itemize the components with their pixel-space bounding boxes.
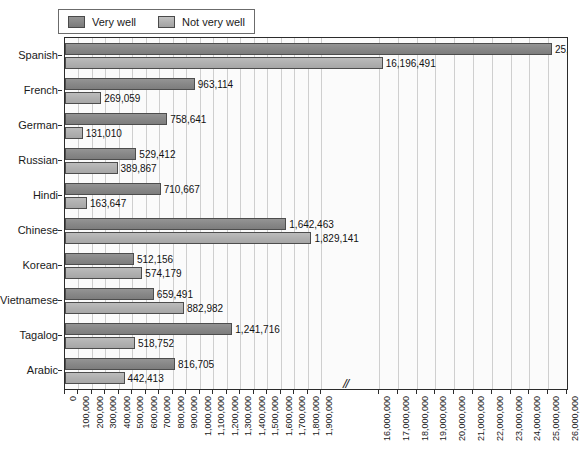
gridline — [567, 38, 568, 389]
x-axis-tick-label: 17,000,000 — [401, 396, 411, 441]
bar-value-label: 1,829,141 — [314, 233, 359, 244]
x-axis-tick — [131, 390, 132, 394]
x-axis-tick-label: 600,000 — [149, 396, 159, 429]
x-axis-tick-label: 800,000 — [176, 396, 186, 429]
bar — [65, 218, 286, 230]
x-axis-tick-label: 1,700,000 — [297, 396, 307, 436]
category-label: Spanish — [18, 49, 58, 61]
bar — [65, 148, 136, 160]
axis-break-icon: // — [343, 376, 348, 391]
x-axis-tick-label: 0 — [68, 396, 78, 401]
x-axis-tick — [104, 390, 105, 394]
category-tick — [58, 160, 62, 161]
x-axis-tick — [253, 390, 254, 394]
x-axis-tick-label: 25,000,000 — [551, 396, 561, 441]
category-tick — [58, 90, 62, 91]
bar — [65, 183, 161, 195]
x-axis-tick-label: 21,000,000 — [476, 396, 486, 441]
legend-swatch-icon — [158, 16, 175, 28]
plot-area: 25,196,49116,196,491963,114269,059758,64… — [64, 37, 568, 390]
legend-item[interactable]: Very well — [68, 16, 136, 28]
x-axis-tick — [453, 390, 454, 394]
bar-value-label: 389,867 — [121, 162, 157, 173]
x-axis-tick-label: 500,000 — [135, 396, 145, 429]
bar-value-label: 710,667 — [164, 183, 200, 194]
x-axis-tick-label: 19,000,000 — [438, 396, 448, 441]
category-tick — [58, 335, 62, 336]
x-axis-tick-label: 100,000 — [81, 396, 91, 429]
x-axis-tick — [91, 390, 92, 394]
x-axis-tick — [172, 390, 173, 394]
x-axis-tick-label: 1,000,000 — [203, 396, 213, 436]
x-axis-tick — [416, 390, 417, 394]
bar — [65, 337, 135, 349]
x-axis-tick-label: 1,200,000 — [230, 396, 240, 436]
legend-item-label: Very well — [92, 16, 136, 28]
bar-value-label: 816,705 — [178, 359, 214, 370]
x-axis-tick — [320, 390, 321, 394]
x-axis-tick-label: 22,000,000 — [495, 396, 505, 441]
x-axis-tick-label: 18,000,000 — [420, 396, 430, 441]
x-axis-tick-label: 1,500,000 — [270, 396, 280, 436]
x-axis-tick-label: 23,000,000 — [514, 396, 524, 441]
x-axis-tick — [185, 390, 186, 394]
category-label: Korean — [23, 259, 58, 271]
category-label: Arabic — [27, 364, 58, 376]
x-axis-tick-label: 300,000 — [108, 396, 118, 429]
x-axis-tick — [547, 390, 548, 394]
category-tick — [58, 230, 62, 231]
bar-value-label: 574,179 — [145, 268, 181, 279]
bar — [65, 162, 118, 174]
bar-value-label: 269,059 — [104, 92, 140, 103]
x-axis-tick-label: 1,600,000 — [284, 396, 294, 436]
bar — [65, 92, 101, 104]
x-axis-tick — [528, 390, 529, 394]
bar — [65, 197, 87, 209]
x-axis-tick — [280, 390, 281, 394]
category-tick — [58, 370, 62, 371]
legend-item[interactable]: Not very well — [158, 16, 245, 28]
x-axis-tick-label: 700,000 — [162, 396, 172, 429]
x-axis-tick — [510, 390, 511, 394]
bar-value-label: 882,982 — [187, 303, 223, 314]
x-axis-tick-label: 1,300,000 — [243, 396, 253, 436]
bar — [65, 127, 83, 139]
x-axis-tick — [472, 390, 473, 394]
category-label: Vietnamese — [0, 294, 58, 306]
x-axis-tick — [434, 390, 435, 394]
bar-value-label: 1,241,716 — [235, 324, 280, 335]
bar-value-label: 163,647 — [90, 197, 126, 208]
bar-value-label: 442,413 — [128, 373, 164, 384]
x-axis-tick — [293, 390, 294, 394]
bar-value-label: 1,642,463 — [289, 219, 334, 230]
bar-chart: Very wellNot very well 25,196,49116,196,… — [0, 0, 584, 459]
category-label: Russian — [18, 154, 58, 166]
bar-value-label: 518,752 — [138, 338, 174, 349]
category-tick — [58, 125, 62, 126]
category-label: Hindi — [33, 189, 58, 201]
x-axis-tick-label: 200,000 — [95, 396, 105, 429]
bar — [65, 267, 142, 279]
x-axis-tick-label: 1,400,000 — [257, 396, 267, 436]
x-axis-tick-label: 1,900,000 — [324, 396, 334, 436]
chart-legend: Very wellNot very well — [58, 9, 255, 34]
x-axis-tick — [226, 390, 227, 394]
bar-value-label: 529,412 — [139, 148, 175, 159]
category-axis: SpanishFrenchGermanRussianHindiChineseKo… — [0, 37, 62, 390]
x-axis-tick — [566, 390, 567, 394]
bar — [65, 232, 311, 244]
x-axis-tick-label: 1,100,000 — [216, 396, 226, 436]
x-axis-tick — [307, 390, 308, 394]
x-axis-tick — [145, 390, 146, 394]
category-tick — [58, 265, 62, 266]
bar — [65, 372, 125, 384]
x-axis-tick-label: 900,000 — [189, 396, 199, 429]
bar-value-label: 512,156 — [137, 254, 173, 265]
x-axis-tick — [491, 390, 492, 394]
x-axis-tick — [397, 390, 398, 394]
category-tick — [58, 55, 62, 56]
category-label: Tagalog — [19, 329, 58, 341]
x-axis-tick-label: 20,000,000 — [457, 396, 467, 441]
x-axis-tick-label: 1,800,000 — [311, 396, 321, 436]
bar — [65, 288, 154, 300]
